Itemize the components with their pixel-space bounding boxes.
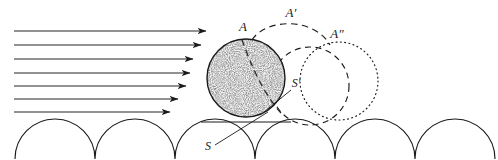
label-contact-initial: S (205, 139, 211, 153)
figure-root: A A′ A″ S S′ (0, 0, 498, 160)
figure-canvas: A A′ A″ S S′ (0, 0, 498, 160)
sphere-final (300, 42, 378, 120)
sphere-initial (207, 39, 285, 117)
airflow-arrows (14, 31, 206, 112)
saltation-trajectory (252, 24, 330, 45)
label-contact-final: S′ (292, 76, 301, 90)
label-sphere-final: A″ (329, 26, 344, 41)
label-sphere-initial: A (238, 19, 247, 34)
rough-bed (15, 119, 495, 159)
label-sphere-mid: A′ (285, 5, 297, 20)
